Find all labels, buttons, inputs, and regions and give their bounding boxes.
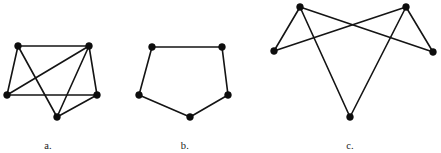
graph-edge (18, 46, 57, 117)
graph-edge (300, 7, 433, 52)
graph-b (136, 44, 232, 121)
graph-edge (57, 46, 89, 117)
graph-canvas (0, 0, 441, 153)
graph-a-caption: a. (44, 140, 52, 151)
graph-edge (7, 46, 18, 95)
graph-edge (139, 95, 190, 117)
graph-vertex (136, 92, 143, 99)
graph-edge (57, 95, 97, 117)
graph-edge (89, 46, 97, 95)
graph-c (271, 4, 437, 121)
graph-figure: a.b.c. (0, 0, 441, 153)
graph-edge (190, 95, 228, 117)
graph-vertex (403, 4, 410, 11)
graph-vertex (219, 44, 226, 51)
graph-vertex (15, 43, 22, 50)
graph-c-caption: c. (346, 140, 354, 151)
graph-edge (7, 46, 89, 95)
graph-vertex (225, 92, 232, 99)
graph-vertex (149, 44, 156, 51)
graph-b-caption: b. (181, 140, 189, 151)
graph-vertex (430, 49, 437, 56)
graph-vertex (187, 114, 194, 121)
graph-edge (300, 7, 350, 117)
graph-vertex (271, 48, 278, 55)
graph-edge (406, 7, 433, 52)
graph-a (4, 43, 101, 121)
graph-vertex (4, 92, 11, 99)
graph-vertex (94, 92, 101, 99)
graph-vertex (86, 43, 93, 50)
graph-edge (222, 47, 228, 95)
graph-edge (139, 47, 152, 95)
graph-vertex (347, 114, 354, 121)
graph-vertex (54, 114, 61, 121)
graph-vertex (297, 4, 304, 11)
